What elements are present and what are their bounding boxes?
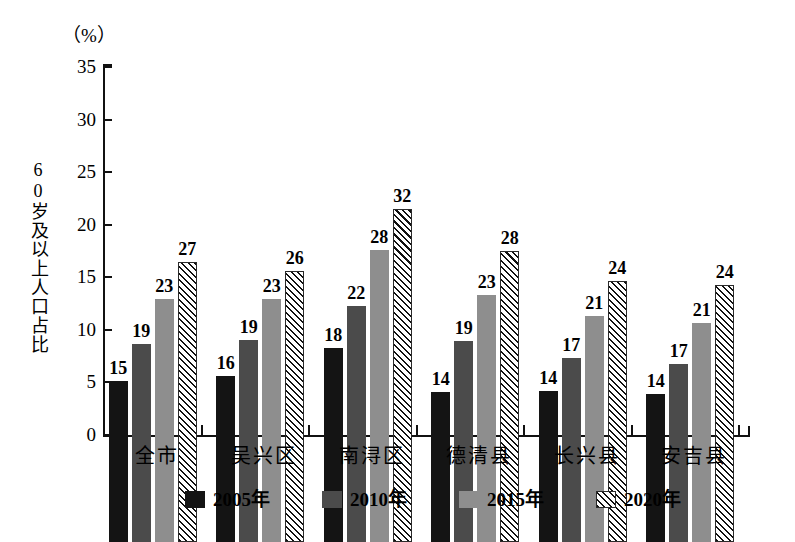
x-axis-right-cap	[748, 426, 750, 437]
legend-swatch-icon	[596, 491, 616, 508]
bar-value-label: 28	[370, 228, 388, 246]
x-tick-mark	[308, 425, 310, 435]
x-category-label: 长兴县	[533, 444, 641, 468]
legend-item[interactable]: 2020年	[596, 490, 681, 509]
bar[interactable]	[715, 285, 734, 542]
bar-value-label: 22	[347, 284, 365, 302]
y-tick-label: 30	[52, 110, 96, 129]
legend-swatch-icon	[185, 491, 205, 508]
bar-value-label: 17	[562, 336, 580, 354]
bar-group: 15192327	[109, 174, 197, 542]
bar-value-label: 32	[393, 187, 411, 205]
legend-label: 2020年	[624, 490, 681, 509]
y-tick-label-text: 30	[56, 110, 96, 129]
bar-value-label: 16	[217, 354, 235, 372]
legend-item[interactable]: 2015年	[459, 490, 544, 509]
legend-label: 2010年	[350, 490, 407, 509]
bar-value-label: 24	[716, 263, 734, 281]
y-tick-label-text: 35	[56, 57, 96, 76]
bar-value-label: 18	[324, 326, 342, 344]
y-tick-label-text: 25	[56, 162, 96, 181]
bar[interactable]	[239, 340, 258, 542]
legend-swatch-icon	[459, 491, 479, 508]
y-tick-mark	[103, 171, 112, 173]
y-tick-label: 25	[52, 162, 96, 181]
bar-value-label: 24	[608, 259, 626, 277]
x-category-label: 安吉县	[641, 444, 749, 468]
bar-value-label: 23	[478, 273, 496, 291]
y-tick-label-text: 10	[56, 320, 96, 339]
bar-group: 16192326	[216, 174, 304, 542]
bar-group: 14172124	[539, 174, 627, 542]
bar-value-label: 21	[585, 294, 603, 312]
y-tick-label-text: 0	[56, 425, 96, 444]
y-axis-title: 60岁及以上人口占比	[22, 160, 48, 354]
x-category-label: 全市	[103, 444, 211, 468]
bar-value-label: 26	[286, 249, 304, 267]
legend-label: 2015年	[487, 490, 544, 509]
y-tick-label-text: 5	[56, 372, 96, 391]
bar-value-label: 21	[693, 301, 711, 319]
legend-item[interactable]: 2010年	[322, 490, 407, 509]
y-axis-unit-label: （%）	[62, 20, 116, 47]
bar-value-label: 19	[132, 322, 150, 340]
legend-label: 2005年	[213, 490, 270, 509]
bar[interactable]	[454, 341, 473, 542]
y-tick-label-text: 20	[56, 215, 96, 234]
bar-value-label: 17	[670, 342, 688, 360]
bar-group: 14192328	[431, 174, 519, 542]
y-tick-label: 10	[52, 320, 96, 339]
bar-value-label: 28	[501, 229, 519, 247]
chart-canvas: （%） 60岁及以上人口占比 05101520253035 1519232716…	[0, 0, 795, 542]
y-tick-label-text: 15	[56, 267, 96, 286]
bar-value-label: 14	[647, 372, 665, 390]
bar-value-label: 23	[155, 277, 173, 295]
bar-value-label: 23	[263, 277, 281, 295]
y-tick-label: 15	[52, 267, 96, 286]
x-category-label: 德清县	[426, 444, 534, 468]
bar[interactable]	[692, 323, 711, 542]
bar-group: 14172124	[646, 174, 734, 542]
bar-value-label: 14	[432, 370, 450, 388]
x-tick-mark	[416, 425, 418, 435]
bar-value-label: 14	[539, 369, 557, 387]
y-tick-label: 35	[52, 57, 96, 76]
y-tick-label: 20	[52, 215, 96, 234]
bar-value-label: 19	[455, 319, 473, 337]
y-tick-mark	[103, 119, 112, 121]
chart-legend: 2005年2010年2015年2020年	[185, 490, 681, 509]
x-tick-mark	[523, 425, 525, 435]
y-tick-label: 5	[52, 372, 96, 391]
x-tick-mark	[631, 425, 633, 435]
bar-group: 18222832	[324, 174, 412, 542]
x-category-label: 吴兴区	[211, 444, 319, 468]
bar[interactable]	[155, 299, 174, 542]
x-tick-mark	[738, 425, 740, 435]
x-category-label: 南浔区	[318, 444, 426, 468]
bar-value-label: 15	[109, 359, 127, 377]
legend-swatch-icon	[322, 491, 342, 508]
bar-value-label: 19	[240, 318, 258, 336]
legend-item[interactable]: 2005年	[185, 490, 270, 509]
bar-value-label: 27	[178, 240, 196, 258]
x-tick-mark	[201, 425, 203, 435]
y-tick-label: 0	[52, 425, 96, 444]
y-tick-mark	[103, 66, 112, 68]
